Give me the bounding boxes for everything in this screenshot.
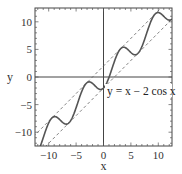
y-tick-label: −10 <box>15 126 33 138</box>
y-tick-label: 10 <box>21 16 33 28</box>
equation-annotation: y = x − 2 cos x <box>107 85 176 98</box>
x-tick-label: −10 <box>40 149 58 161</box>
chart: −10−50510 −10−50510 x y y = x − 2 cos x <box>0 0 182 174</box>
y-tick-label: −5 <box>20 99 32 111</box>
y-axis-label: y <box>7 70 13 84</box>
x-tick-label: 10 <box>153 149 165 161</box>
x-tick-label: −5 <box>70 149 82 161</box>
y-tick-label: 0 <box>27 71 33 83</box>
x-tick-label: 5 <box>128 149 134 161</box>
y-tick-labels: −10−50510 <box>15 16 33 138</box>
annotation-group: y = x − 2 cos x <box>105 84 176 98</box>
zero-axes <box>35 8 172 146</box>
y-tick-label: 5 <box>27 43 33 55</box>
x-axis-label: x <box>101 159 107 173</box>
